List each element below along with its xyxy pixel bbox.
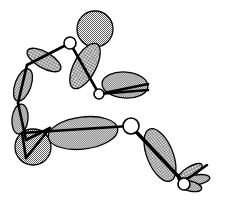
figure-canvas [0, 0, 226, 200]
joint-elbow-right [94, 89, 104, 99]
joint-shoulder [64, 37, 76, 49]
joint-hip-right [123, 118, 139, 134]
joint-ankle-right [178, 178, 190, 190]
body-segment-head [77, 11, 113, 47]
articulated-figure-illustration [0, 0, 226, 200]
